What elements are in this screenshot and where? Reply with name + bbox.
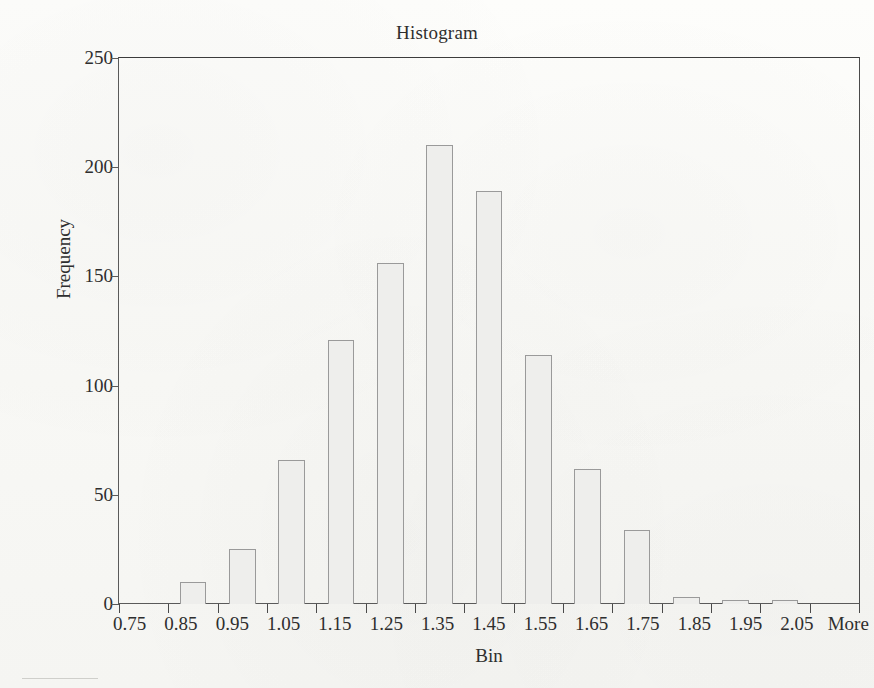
x-axis-tick-mark [464, 604, 465, 613]
x-axis-title: Bin [118, 645, 860, 667]
y-axis-tick-label: 200 [63, 156, 113, 178]
x-axis-tick-mark [711, 604, 712, 613]
x-axis-tick-mark [168, 604, 169, 613]
x-axis-tick-mark [810, 604, 811, 613]
x-axis-tick-mark [316, 604, 317, 613]
x-axis-tick-label: 1.45 [463, 613, 514, 635]
x-axis-tick-mark [760, 604, 761, 613]
x-axis-tick-label: 0.75 [104, 613, 155, 635]
y-axis-tick-mark [111, 58, 119, 59]
bar-slot [662, 58, 711, 604]
x-axis-tick-mark [119, 604, 120, 613]
x-axis-tick-label: 1.05 [258, 613, 309, 635]
bar-slot [563, 58, 612, 604]
x-axis-tick-mark [415, 604, 416, 613]
x-axis-tick-label: More [823, 613, 874, 635]
x-axis-tick-mark [563, 604, 564, 613]
y-axis-tick-mark [111, 495, 119, 496]
histogram-bar [180, 582, 207, 604]
y-axis-tick-label: 150 [63, 265, 113, 287]
bar-slot [366, 58, 415, 604]
x-axis-tick-label: 1.85 [669, 613, 720, 635]
bars-container [119, 58, 859, 604]
histogram-bar [377, 263, 404, 604]
x-axis-labels: 0.750.850.951.051.151.251.351.451.551.65… [104, 613, 874, 635]
histogram-bar [624, 530, 651, 604]
x-axis-tick-label: 2.05 [771, 613, 822, 635]
y-axis-tick-label: 50 [63, 484, 113, 506]
bar-slot [810, 58, 859, 604]
bar-slot [267, 58, 316, 604]
bar-slot [711, 58, 760, 604]
scan-artifact-rule [22, 678, 98, 679]
histogram-bar [328, 340, 355, 604]
y-axis-tick-label: 100 [63, 375, 113, 397]
x-axis-tick-mark [514, 604, 515, 613]
x-axis-tick-mark [218, 604, 219, 613]
x-axis-tick-label: 1.15 [309, 613, 360, 635]
bar-slot [119, 58, 168, 604]
x-axis-tick-label: 1.65 [566, 613, 617, 635]
chart-title: Histogram [0, 22, 874, 44]
x-axis-tick-label: 1.95 [720, 613, 771, 635]
y-axis-tick-mark [111, 276, 119, 277]
y-axis-tick-mark [111, 604, 119, 605]
y-axis-tick-mark [111, 386, 119, 387]
x-axis-tick-mark [366, 604, 367, 613]
y-axis-tick-label: 0 [63, 593, 113, 615]
histogram-bar [229, 549, 256, 604]
y-axis-title: Frequency [53, 159, 75, 359]
x-axis-ticks [119, 604, 859, 613]
histogram-bar [574, 469, 601, 604]
x-axis-tick-label: 1.55 [515, 613, 566, 635]
bar-slot [316, 58, 365, 604]
x-axis-tick-label: 0.85 [155, 613, 206, 635]
bar-slot [514, 58, 563, 604]
bar-slot [218, 58, 267, 604]
bar-slot [612, 58, 661, 604]
x-axis-tick-label: 1.35 [412, 613, 463, 635]
y-axis-tick-label: 250 [63, 47, 113, 69]
x-axis-tick-mark [662, 604, 663, 613]
x-axis-tick-mark [612, 604, 613, 613]
y-axis-tick-mark [111, 167, 119, 168]
bar-slot [168, 58, 217, 604]
x-axis-tick-label: 1.25 [361, 613, 412, 635]
x-axis-tick-label: 0.95 [207, 613, 258, 635]
histogram-bar [426, 145, 453, 604]
histogram-bar [278, 460, 305, 604]
x-axis-tick-mark [859, 604, 860, 613]
histogram-bar [525, 355, 552, 604]
histogram-bar [476, 191, 503, 604]
x-axis-tick-mark [267, 604, 268, 613]
x-axis-tick-label: 1.75 [617, 613, 668, 635]
histogram-figure: Histogram Frequency 050100150200250 0.75… [0, 0, 874, 688]
bar-slot [464, 58, 513, 604]
bar-slot [415, 58, 464, 604]
bar-slot [760, 58, 809, 604]
